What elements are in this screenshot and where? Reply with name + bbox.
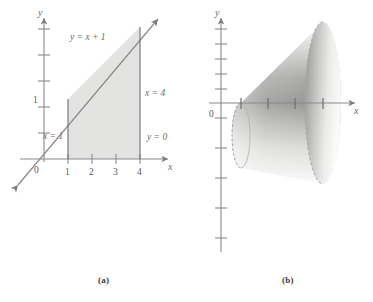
x-tick-label-2: 2 [89,167,94,177]
x-axis-label: x [167,161,173,172]
origin-label: 0 [209,109,214,119]
x-axis-label: x [353,105,359,116]
shaded-region [68,27,140,159]
annotation-y-equals-0: y = 0 [146,132,167,142]
x-tick-label-1: 1 [65,167,70,177]
x-tick-label-3: 3 [113,167,118,177]
y-axis-label: y [37,7,43,18]
figure-container: y x 0 1 2 3 4 1 y = x + 1 x = 4 x = 1 y … [0,0,373,302]
caption-a: (a) [98,275,109,285]
annotation-x-equals-4: x = 4 [144,88,165,98]
y-tick-label-1: 1 [33,95,38,105]
annotation-line-equation: y = x + 1 [69,32,106,42]
origin-label: 0 [34,165,39,175]
panel-a: y x 0 1 2 3 4 1 y = x + 1 x = 4 x = 1 y … [0,0,190,302]
panel-b-plot: y x 0 [183,0,373,270]
panel-a-plot: y x 0 1 2 3 4 1 y = x + 1 x = 4 x = 1 y … [0,0,190,270]
caption-b: (b) [282,275,294,285]
annotation-x-equals-1: x = 1 [42,131,63,141]
y-axis-label: y [214,7,220,18]
panel-b: y x 0 [183,0,373,302]
x-tick-label-4: 4 [137,167,142,177]
